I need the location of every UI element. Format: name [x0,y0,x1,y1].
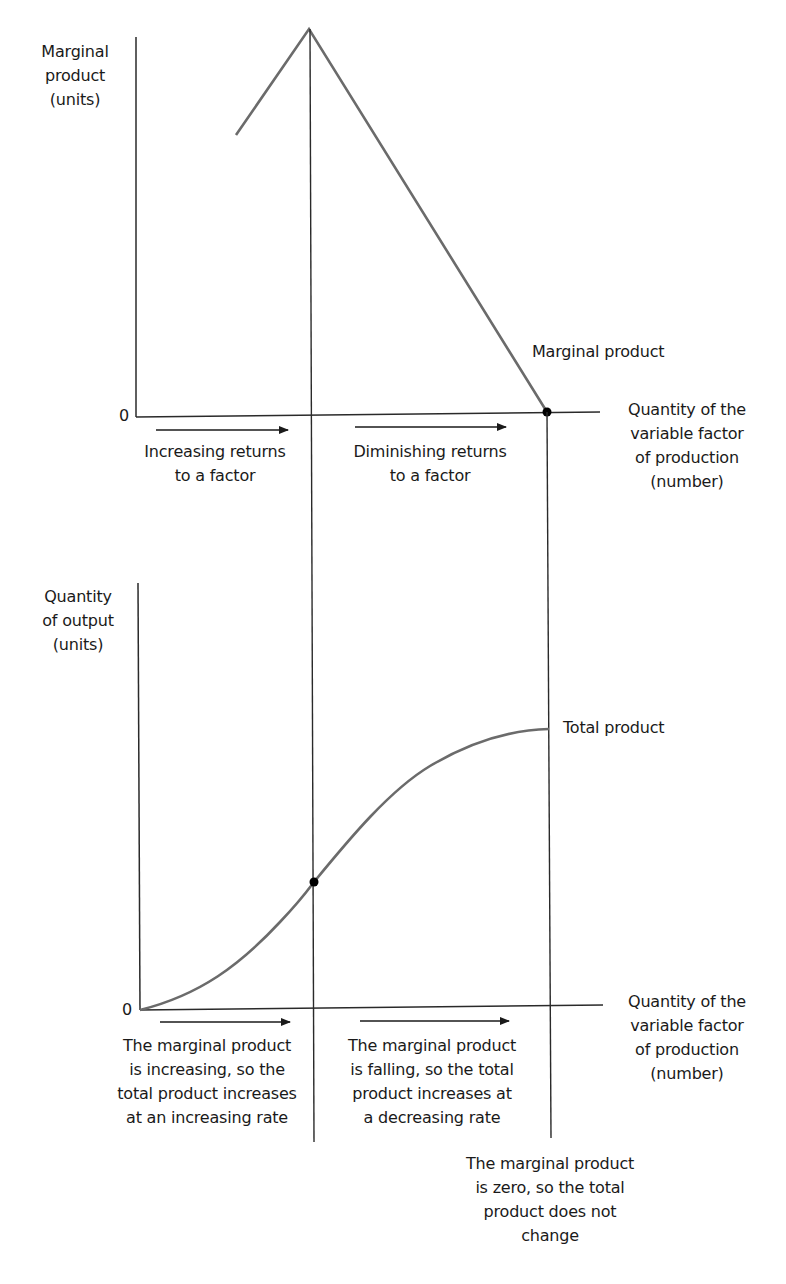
top-x-axis [136,412,600,417]
marginal-product-curve [236,29,547,412]
bottom-y-axis [138,583,140,1010]
top-y-axis-label: Marginal product (units) [30,40,120,112]
diminishing-returns-label: Diminishing returns to a factor [335,440,525,488]
increasing-rate-explanation: The marginal product is increasing, so t… [104,1034,310,1130]
top-origin-label: 0 [119,406,129,425]
bottom-x-axis [140,1005,603,1010]
total-product-curve-label: Total product [563,716,664,740]
top-x-axis-label: Quantity of the variable factor of produ… [612,398,762,494]
total-product-curve [140,729,549,1010]
marginal-product-curve-label: Marginal product [532,340,664,364]
bottom-origin-label: 0 [122,1000,132,1019]
zero-marginal-product-explanation: The marginal product is zero, so the tot… [447,1152,653,1248]
inflection-point-marker [310,878,319,887]
bottom-y-axis-label: Quantity of output (units) [28,585,128,657]
decreasing-rate-explanation: The marginal product is falling, so the … [332,1034,532,1130]
max-marginal-product-divider [310,29,314,1142]
zero-marginal-product-divider [547,412,551,1138]
increasing-returns-label: Increasing returns to a factor [130,440,300,488]
bottom-x-axis-label: Quantity of the variable factor of produ… [612,990,762,1086]
